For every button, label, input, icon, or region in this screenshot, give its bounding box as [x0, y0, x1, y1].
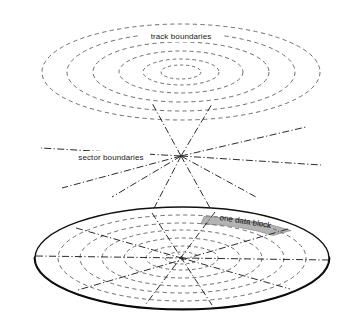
sector-ray-ene: [181, 127, 306, 156]
disk-structure-diagram: track boundaries sector boundaries: [0, 0, 344, 327]
track-ring-inner-6: [161, 65, 201, 79]
sector-boundaries-label: sector boundaries: [78, 153, 143, 162]
track-boundaries-label: track boundaries: [151, 32, 212, 41]
sector-ray-e: [181, 156, 321, 165]
diagram-canvas: track boundaries sector boundaries: [0, 0, 344, 327]
track-ring-4: [119, 51, 243, 93]
platter-hub: [180, 256, 183, 259]
sector-boundaries-plane: [41, 103, 321, 197]
sector-ray-n: [181, 104, 212, 156]
disk-platter: [35, 207, 329, 309]
track-ring-5: [143, 59, 219, 85]
track-ring-2: [67, 33, 295, 111]
